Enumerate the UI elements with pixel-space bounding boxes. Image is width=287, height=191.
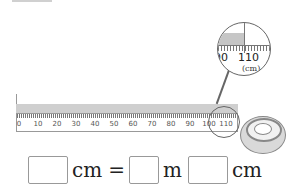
answer-box-total-cm[interactable] [28, 156, 68, 184]
answer-box-m[interactable] [129, 156, 159, 184]
ruler-label: 50 [110, 120, 119, 128]
tape-measure-case-icon [238, 112, 287, 156]
ruler-shaded-portion [16, 104, 238, 113]
magnified-label-90: 90 [217, 51, 228, 64]
ruler-label: 70 [148, 120, 157, 128]
ruler-label: 30 [72, 120, 81, 128]
conversion-equation: cm= m cm [28, 156, 268, 184]
ruler-label: 90 [186, 120, 195, 128]
lens-circle [208, 106, 240, 138]
magnified-label-110: 110 [238, 51, 259, 64]
ruler-label: 10 [34, 120, 43, 128]
magnified-shade [218, 33, 244, 45]
unit-m: m [163, 158, 182, 182]
ruler-label: 80 [167, 120, 176, 128]
magnified-unit: (cm) [242, 64, 260, 73]
ruler-label: 20 [53, 120, 62, 128]
magnifier-pointer [216, 70, 230, 104]
magnifier-callout: 90 110 (cm) [217, 22, 271, 76]
unit-cm-2: cm [232, 158, 262, 182]
tape-measure-ruler: 0 10 20 30 40 50 60 70 80 90 100 110 [16, 104, 238, 132]
cropped-text-line [12, 0, 52, 2]
unit-cm: cm [72, 158, 102, 182]
ruler-ticks [17, 114, 237, 118]
answer-box-cm[interactable] [188, 156, 228, 184]
tape-case-inner [254, 123, 272, 135]
ruler-scale: 0 10 20 30 40 50 60 70 80 90 100 110 [16, 113, 238, 132]
equals-sign: = [108, 158, 125, 182]
ruler-label: 40 [91, 120, 100, 128]
ruler-label: 60 [129, 120, 138, 128]
ruler-label: 0 [17, 120, 21, 128]
